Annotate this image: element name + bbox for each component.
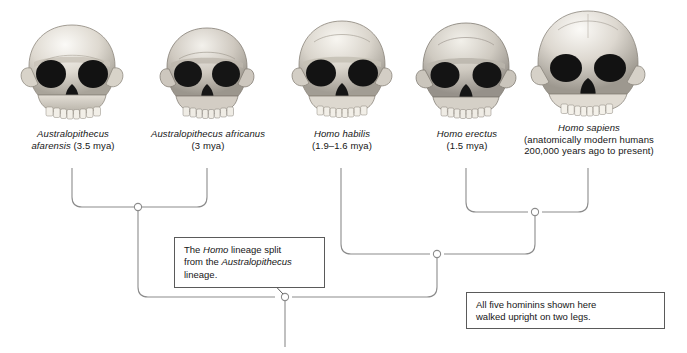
callout-line-2: from the Australopithecus: [184, 256, 316, 268]
callout-upright-walking: All five hominins shown here walked upri…: [466, 292, 665, 329]
callout-line-3: lineage.: [184, 269, 316, 281]
branch-africanus: [194, 168, 207, 207]
callout-homo-split: The Homo lineage split from the Australo…: [174, 237, 325, 288]
node-australopithecus: [134, 203, 141, 210]
branch-habilis: [341, 168, 430, 254]
node-root: [281, 293, 288, 300]
branch-afarensis: [72, 168, 194, 207]
callout-line-1: The Homo lineage split: [184, 244, 316, 256]
node-erectus-sapiens: [531, 208, 538, 215]
branch-erectus-sapiens-stem: [444, 212, 535, 254]
callout-line-1: All five hominins shown here: [476, 299, 656, 311]
branch-sapiens: [542, 168, 588, 212]
figure-canvas: Australopithecus afarensis (3.5 mya) Aus…: [0, 0, 687, 353]
branch-erectus: [466, 168, 528, 212]
callout-line-2: walked upright on two legs.: [476, 311, 656, 323]
node-homo: [433, 250, 440, 257]
